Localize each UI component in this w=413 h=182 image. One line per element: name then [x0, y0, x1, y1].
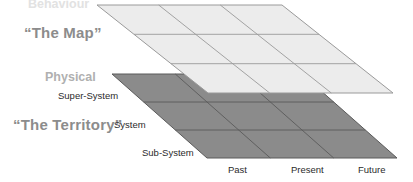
diagram-canvas: Behaviour “The Map” Physical Super-Syste… — [0, 0, 413, 182]
title-the-territory: “The Territory” — [13, 117, 122, 132]
layer-caption-physical: Physical — [45, 71, 96, 84]
axis-label-present: Present — [291, 165, 324, 175]
axis-label-past: Past — [228, 165, 247, 175]
title-the-map: “The Map” — [24, 25, 102, 40]
axis-label-sub-system: Sub-System — [142, 148, 194, 158]
axis-label-future: Future — [358, 165, 385, 175]
axis-label-system: System — [114, 120, 146, 130]
layer-caption-behaviour: Behaviour — [28, 0, 89, 11]
axis-label-super-system: Super-System — [58, 91, 118, 101]
